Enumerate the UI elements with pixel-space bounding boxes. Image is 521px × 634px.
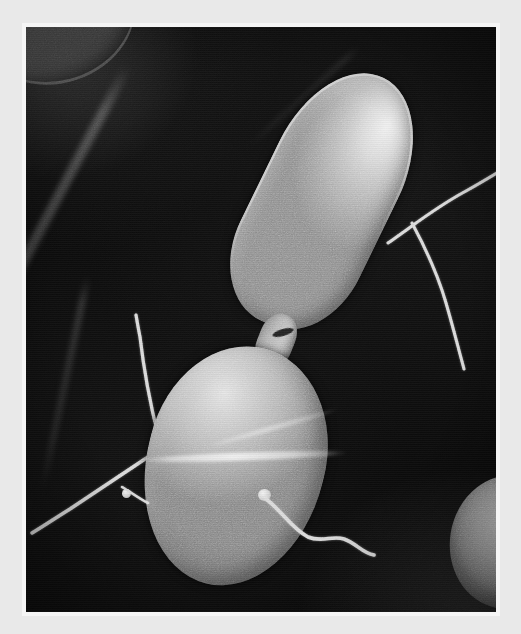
screenshot-root bbox=[0, 0, 521, 634]
bacterium-lower-surface-fold bbox=[138, 449, 348, 464]
filament-anchor-knob-left bbox=[122, 489, 131, 498]
sem-micrograph-image bbox=[26, 27, 496, 612]
photo-frame bbox=[0, 0, 521, 634]
bacterium-lower-surface-fold-2 bbox=[205, 406, 340, 449]
filament-anchor-knob bbox=[258, 489, 271, 501]
